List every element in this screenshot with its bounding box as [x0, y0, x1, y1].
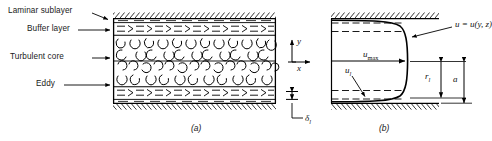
bottom-wall-hatch	[113, 104, 276, 110]
callout-buffer-layer: Buffer layer	[27, 25, 70, 33]
profile-top-wall-hatch	[331, 13, 439, 19]
ul-leader	[352, 76, 365, 97]
eddy-marks-row3	[118, 61, 279, 73]
eddy-marks-row2	[116, 50, 268, 61]
profile-equation-leader	[412, 27, 452, 37]
ul-subscript: l	[350, 70, 352, 77]
callout-eddy: Eddy	[36, 80, 55, 88]
delta-leader	[292, 103, 303, 118]
sublayer-thickness-label: δl	[305, 114, 311, 125]
umax-subscript: max	[368, 54, 379, 61]
x-axis-label: x	[297, 64, 301, 73]
axis-group	[286, 40, 310, 118]
profile-bottom-wall-hatch	[331, 104, 439, 110]
ul-label: ul	[345, 66, 351, 77]
rl-label: rl	[425, 72, 430, 83]
rl-subscript: l	[429, 76, 431, 83]
buffer-layer-top-marks	[117, 25, 274, 32]
caption-b: (b)	[379, 123, 389, 133]
caption-a: (a)	[191, 123, 201, 133]
y-axis-label: y	[297, 37, 301, 46]
panel-b-group	[331, 13, 472, 110]
top-wall-hatch	[113, 13, 276, 19]
profile-equation-label: u = u(y, z)	[455, 20, 492, 29]
delta-subscript: l	[309, 118, 311, 125]
eddy-marks-row4	[117, 75, 272, 85]
umax-label: umax	[363, 50, 379, 61]
buffer-layer-bottom-marks	[117, 89, 274, 96]
pipe-radius-label: a	[453, 75, 458, 84]
callout-turbulent-core: Turbulent core	[10, 53, 64, 61]
panel-a-group	[64, 13, 279, 110]
leader-laminar-sublayer	[92, 13, 108, 20]
callout-laminar-sublayer: Laminar sublayer	[8, 7, 72, 15]
eddy-marks-row1	[116, 39, 276, 51]
